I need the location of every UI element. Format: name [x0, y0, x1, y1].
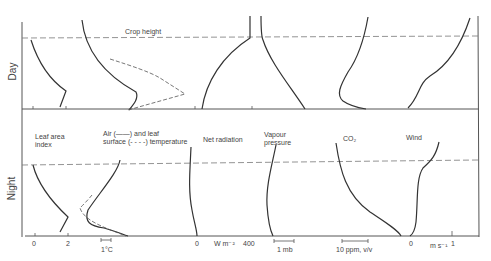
vapour-pressure-label: Vapour pressure	[264, 131, 291, 147]
night-wind-curve	[410, 142, 439, 236]
co2-scale-label: 10 ppm, v/v	[336, 246, 372, 253]
profile-figure	[0, 0, 491, 261]
wind-unit: m s⁻¹	[430, 242, 448, 250]
day-co2-curve	[408, 18, 470, 108]
night-co2-curve	[336, 143, 401, 236]
night-lai-curve	[33, 165, 68, 232]
net-radiation-label: Net radiation	[203, 136, 243, 144]
night-crop-height-line	[22, 160, 478, 165]
day-vapour-pressure-curve	[339, 17, 368, 109]
day-net-radiation-curve	[202, 16, 250, 109]
temperature-label: Air (——) and leaf surface (- - - -) temp…	[103, 130, 187, 146]
night-vapour-pressure-curve	[267, 145, 276, 236]
rad-tick-0: 0	[195, 240, 199, 247]
lai-tick-0: 0	[32, 240, 36, 247]
co2-label: CO₂	[343, 135, 356, 143]
night-panel-label: Night	[6, 177, 17, 200]
day-leaf-temp-curve	[110, 59, 185, 110]
co2-scale-bar	[342, 239, 368, 243]
day-panel-label: Day	[7, 63, 18, 81]
wind-tick-1: 1	[451, 240, 455, 247]
crop-height-label: Crop height	[125, 28, 161, 36]
right-frame	[478, 16, 479, 237]
night-net-radiation-curve	[190, 147, 197, 236]
wind-tick-0: 0	[409, 240, 413, 247]
day-lai-curve	[31, 40, 66, 107]
night-air-temp-curve	[87, 160, 128, 236]
lai-label: Leaf area index	[35, 133, 65, 149]
temp-scale-bar	[101, 238, 111, 242]
rad-unit: W m⁻²	[214, 240, 235, 248]
day-net-radiation-top	[261, 16, 305, 109]
vp-scale-label: 1 mb	[277, 246, 293, 253]
wind-label: Wind	[406, 134, 422, 142]
rad-tick-400: 400	[243, 240, 255, 247]
temp-scale-label: 1°C	[101, 246, 113, 253]
vp-scale-bar	[274, 239, 294, 243]
lai-tick-2: 2	[66, 240, 70, 247]
